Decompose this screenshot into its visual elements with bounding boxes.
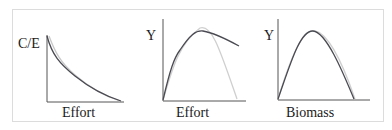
panel-yield-effort-plot (163, 19, 246, 101)
dark-curve (47, 36, 121, 101)
panel-yield-biomass-plot (278, 19, 370, 100)
panel-yield-effort-xlabel: Effort (176, 106, 209, 120)
light-curve (49, 36, 120, 101)
panel-yield-biomass-ylabel: Y (264, 29, 274, 43)
panel-yield-biomass-xlabel: Biomass (286, 106, 334, 120)
panel-yield-effort-ylabel: Y (146, 29, 156, 43)
panel-cpue-plot (47, 35, 124, 102)
panel-cpue-ylabel: C/E (18, 37, 40, 51)
dark-curve (278, 31, 354, 99)
light-curve (163, 28, 237, 100)
panel-cpue-xlabel: Effort (62, 106, 95, 120)
